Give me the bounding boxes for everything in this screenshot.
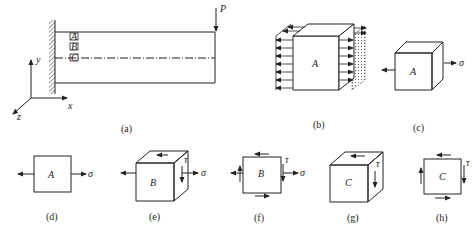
point-c-label: C: [71, 52, 78, 63]
caption-c: (c): [413, 122, 424, 134]
panel-a: [13, 8, 216, 114]
element-c-label-g: C: [345, 177, 352, 188]
mechanics-diagram: P A B C y x z (a): [0, 0, 473, 237]
caption-g: (g): [347, 212, 359, 224]
element-a-label-b: A: [311, 58, 319, 69]
load-label-p: P: [219, 3, 226, 14]
sigma-label-f: σ: [300, 167, 306, 178]
z-axis-label: z: [16, 111, 21, 122]
caption-d: (d): [46, 211, 58, 223]
sigma-label-e: σ: [201, 167, 207, 178]
sigma-label-c: σ: [459, 57, 465, 68]
tau-label-e: τ: [184, 154, 188, 165]
caption-a: (a): [121, 123, 132, 135]
fixed-wall-hatch: [49, 20, 55, 94]
sigma-label-d: σ: [88, 168, 94, 179]
element-a-label-c: A: [409, 66, 417, 77]
element-b-top-face: [136, 151, 188, 163]
caption-b: (b): [313, 119, 325, 131]
caption-e: (e): [149, 211, 160, 223]
element-b-label-e: B: [150, 177, 156, 188]
tau-label-g: τ: [376, 158, 380, 169]
panel-b: [276, 24, 366, 90]
tau-label-h: τ: [466, 157, 470, 168]
element-a-side-face: [432, 42, 443, 90]
tau-label-f: τ: [285, 154, 289, 165]
caption-f: (f): [254, 212, 264, 224]
element-a-top-face: [395, 42, 443, 53]
caption-h: (h): [436, 212, 448, 224]
y-axis-label: y: [35, 54, 41, 65]
element-a-label-d: A: [47, 169, 55, 180]
element-b-label-f: B: [258, 168, 264, 179]
x-axis-label: x: [67, 100, 73, 111]
z-axis-arrow: [13, 98, 31, 114]
point-b-label: B: [71, 41, 77, 52]
panel-c: [382, 42, 456, 90]
element-c-label-h: C: [439, 171, 446, 182]
